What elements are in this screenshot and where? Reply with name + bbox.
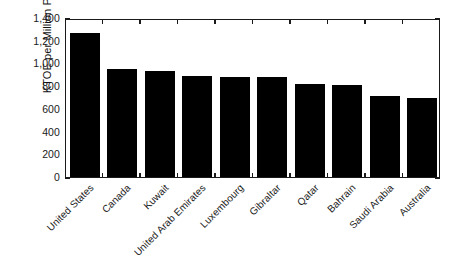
y-axis-tick-label: 0 [10, 171, 60, 183]
x-axis-tick-mark [214, 19, 215, 24]
x-axis-tick-mark [364, 173, 365, 178]
plot-area [65, 19, 440, 178]
y-axis-tick-label: 1,400 [10, 12, 60, 24]
y-axis-tick-label: 1,000 [10, 57, 60, 69]
x-axis-tick-mark [402, 19, 403, 24]
x-axis-tick-mark [252, 19, 253, 24]
y-axis-tick-label: 200 [10, 148, 60, 160]
x-axis-tick-mark [102, 19, 103, 24]
bar [220, 77, 250, 178]
bar [182, 76, 212, 177]
y-axis-tick-label: 400 [10, 126, 60, 138]
bar [295, 84, 325, 177]
x-axis-tick-mark [252, 173, 253, 178]
y-axis-tick-label: 800 [10, 80, 60, 92]
bar [370, 96, 400, 177]
y-axis-tick-label: 1,200 [10, 35, 60, 47]
x-axis-tick-mark [177, 19, 178, 24]
x-axis-tick-mark [214, 173, 215, 178]
x-axis-tick-mark [289, 19, 290, 24]
x-axis-tick-mark [364, 19, 365, 24]
bar [107, 69, 137, 177]
x-axis-tick-mark [177, 173, 178, 178]
x-axis-tick-mark [327, 19, 328, 24]
x-axis-tick-mark [289, 173, 290, 178]
bar-chart-figure: KTOE per Million People 02004006008001,0… [0, 0, 458, 266]
x-axis-tick-mark [402, 173, 403, 178]
bar [407, 98, 437, 178]
x-axis-tick-mark [139, 19, 140, 24]
bar-series [66, 20, 439, 177]
bar [332, 85, 362, 177]
x-axis-tick-mark [327, 173, 328, 178]
bar [70, 33, 100, 177]
bar [257, 77, 287, 177]
bar [145, 71, 175, 177]
y-axis-tick-label: 600 [10, 103, 60, 115]
x-axis-tick-mark [139, 173, 140, 178]
x-axis-tick-mark [102, 173, 103, 178]
